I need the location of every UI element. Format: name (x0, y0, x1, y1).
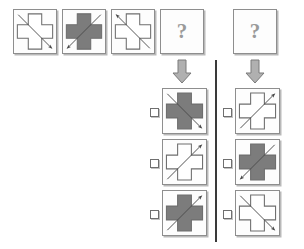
right-option-1-checkbox[interactable] (223, 108, 232, 117)
column-divider (215, 60, 217, 242)
stimulus-cell-1 (13, 9, 57, 54)
down-arrow-right (245, 59, 265, 84)
left-option-1-tile[interactable] (162, 88, 207, 134)
cross-arrow-figure (163, 191, 206, 235)
cross-arrow-figure (112, 10, 154, 53)
left-option-2-tile[interactable] (162, 139, 207, 185)
question-mark-glyph-right: ? (234, 10, 276, 53)
right-option-2-checkbox[interactable] (223, 159, 232, 168)
left-option-1-checkbox[interactable] (150, 108, 159, 117)
cross-arrow-figure (63, 10, 105, 53)
cross-arrow-figure (236, 191, 279, 235)
left-option-2-checkbox[interactable] (150, 159, 159, 168)
question-mark-glyph-left: ? (161, 10, 203, 53)
cross-arrow-figure (163, 140, 206, 184)
right-option-3-checkbox[interactable] (223, 210, 232, 219)
stimulus-cell-unknown-left: ? (160, 9, 204, 54)
stimulus-cell-3 (111, 9, 155, 54)
cross-arrow-figure (14, 10, 56, 53)
left-option-3-tile[interactable] (162, 190, 207, 236)
cross-arrow-figure (236, 89, 279, 133)
right-option-3-tile[interactable] (235, 190, 280, 236)
puzzle-canvas: ? ? (0, 0, 304, 249)
stimulus-cell-unknown-right: ? (233, 9, 277, 54)
cross-arrow-figure (163, 89, 206, 133)
right-option-1-tile[interactable] (235, 88, 280, 134)
stimulus-cell-2 (62, 9, 106, 54)
right-option-2-tile[interactable] (235, 139, 280, 185)
left-option-3-checkbox[interactable] (150, 210, 159, 219)
down-arrow-left (172, 59, 192, 84)
cross-arrow-figure (236, 140, 279, 184)
